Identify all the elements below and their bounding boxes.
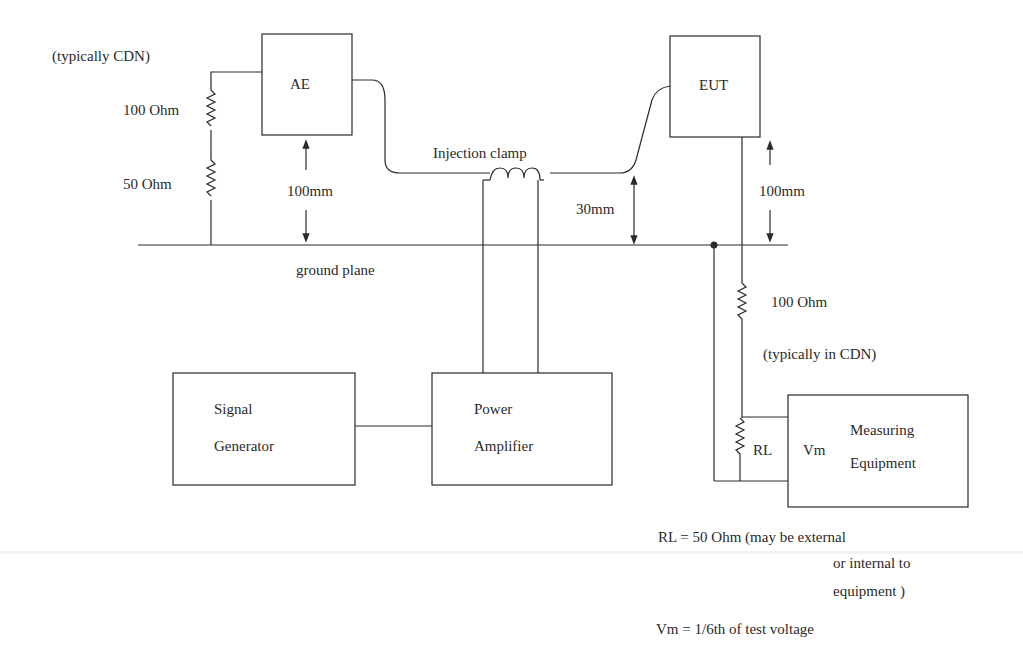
ground-junction-dot — [711, 242, 718, 249]
resistor-100-ohm-right — [738, 283, 746, 319]
note-vm: Vm = 1/6th of test voltage — [656, 620, 814, 638]
power-amplifier-label-line2: Amplifier — [474, 437, 533, 455]
note-rl-line3: equipment ) — [833, 582, 905, 600]
resistor-rl — [736, 418, 744, 454]
resistor-50-ohm-left — [207, 160, 215, 196]
ae-label: AE — [290, 75, 310, 93]
diagram-canvas: (typically CDN) 100 Ohm 50 Ohm AE 100mm … — [0, 0, 1023, 646]
note-rl-line1: RL = 50 Ohm (may be external — [658, 528, 846, 546]
label-30mm: 30mm — [576, 200, 614, 218]
label-ground-plane: ground plane — [296, 261, 375, 279]
cable-eut-side — [550, 86, 670, 173]
measuring-equipment-label-line2: Equipment — [850, 454, 916, 472]
label-100-ohm-left: 100 Ohm — [123, 101, 179, 119]
label-rl: RL — [753, 441, 772, 459]
label-vm: Vm — [803, 441, 826, 459]
signal-generator-box — [173, 373, 355, 485]
resistor-100-ohm-left — [207, 90, 215, 126]
power-amplifier-label-line1: Power — [474, 400, 512, 418]
measuring-equipment-label-line1: Measuring — [850, 421, 914, 439]
label-injection-clamp: Injection clamp — [433, 144, 527, 162]
circuit-wiring — [0, 0, 1023, 646]
label-ae-100mm: 100mm — [287, 182, 333, 200]
label-typically-in-cdn: (typically in CDN) — [763, 345, 876, 363]
label-eut-100mm: 100mm — [759, 182, 805, 200]
note-rl-line2: or internal to — [833, 554, 910, 572]
signal-generator-label-line2: Generator — [214, 437, 274, 455]
signal-generator-label-line1: Signal — [214, 400, 252, 418]
eut-label: EUT — [699, 76, 728, 94]
injection-clamp-coil — [490, 168, 540, 180]
label-50-ohm-left: 50 Ohm — [123, 175, 172, 193]
power-amplifier-box — [432, 373, 612, 485]
label-typically-cdn-left: (typically CDN) — [52, 47, 150, 65]
label-100-ohm-right: 100 Ohm — [771, 293, 827, 311]
